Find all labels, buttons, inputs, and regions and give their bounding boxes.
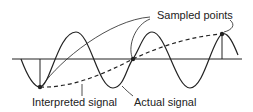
sampled-points-label: Sampled points: [157, 9, 233, 21]
sample-point-3: [220, 32, 224, 36]
actual-signal-label: Actual signal: [134, 96, 196, 108]
interpreted-signal-label: Interpreted signal: [32, 96, 117, 108]
sample-point-1: [38, 85, 42, 89]
interpreted-signal-curve: [40, 34, 222, 87]
sampled-points-leader-3: [224, 20, 233, 32]
actual-signal-curve: [21, 32, 238, 88]
sample-point-2: [131, 57, 135, 61]
actual-signal-leader: [122, 86, 133, 96]
sampled-points-leader-2: [131, 19, 150, 57]
